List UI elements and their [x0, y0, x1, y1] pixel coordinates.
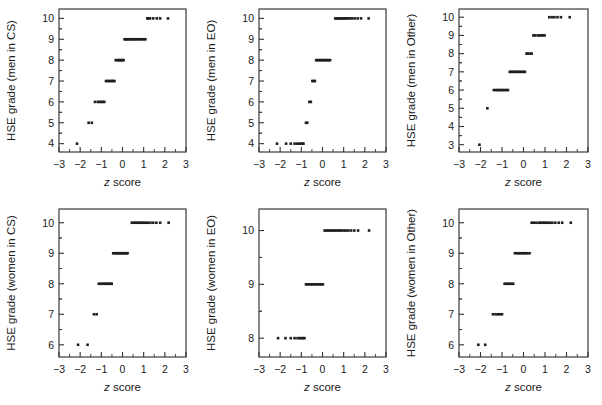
- y-tick-label: 7: [448, 66, 454, 78]
- data-point: [554, 221, 557, 224]
- y-tick-label: 4: [448, 120, 454, 132]
- data-point: [87, 121, 90, 124]
- x-tick-label: 1: [542, 158, 548, 170]
- data-point: [126, 252, 129, 255]
- x-tick-label: 1: [341, 158, 347, 170]
- y-tick-label: 7: [48, 308, 54, 320]
- data-point: [322, 283, 325, 286]
- x-tick-label: 1: [141, 158, 147, 170]
- y-axis-title: HSE grade (men in CS): [5, 20, 17, 141]
- data-point: [543, 34, 546, 37]
- x-tick-label: −2: [74, 363, 86, 375]
- y-axis-title: HSE grade (men in Other): [405, 14, 417, 148]
- y-tick-label: 9: [48, 33, 54, 45]
- data-point: [360, 17, 363, 20]
- data-point: [149, 17, 152, 20]
- data-point: [155, 17, 158, 20]
- plot-men-cs: −3−2−1012345678910z scoreHSE grade (men …: [0, 0, 200, 200]
- x-tick-label: 3: [585, 363, 591, 375]
- x-tick-label: 2: [162, 363, 168, 375]
- x-tick-label: 3: [183, 363, 189, 375]
- data-point: [122, 59, 125, 62]
- y-tick-label: 9: [248, 278, 254, 290]
- x-axis-title-rest: score: [110, 176, 141, 188]
- data-points: [276, 17, 370, 145]
- data-point: [477, 343, 480, 346]
- data-point: [551, 221, 554, 224]
- y-axis-title: HSE grade (men in EO): [205, 20, 217, 142]
- y-tick-label: 8: [448, 278, 454, 290]
- data-point: [353, 17, 356, 20]
- y-tick-label: 4: [248, 137, 254, 149]
- plot-men-eo: −3−2−1012345678910z scoreHSE grade (men …: [200, 0, 400, 200]
- x-tick-label: −1: [496, 363, 508, 375]
- plot-frame: [459, 209, 588, 357]
- data-point: [293, 142, 296, 145]
- y-axis-title: HSE grade (women in Other): [405, 209, 417, 357]
- y-tick-label: 10: [42, 217, 54, 229]
- panel-women-other: −3−2−10123678910z scoreHSE grade (women …: [400, 200, 602, 405]
- x-tick-label: 2: [362, 158, 368, 170]
- x-tick-label: 0: [120, 363, 126, 375]
- y-tick-label: 7: [48, 75, 54, 87]
- x-tick-label: 0: [521, 158, 527, 170]
- data-point: [314, 80, 317, 83]
- data-point: [147, 221, 150, 224]
- x-axis-title-rest: score: [511, 381, 542, 393]
- plot-men-other: −3−2−10123345678910z scoreHSE grade (men…: [400, 0, 602, 200]
- data-point: [530, 52, 533, 55]
- x-axis-title-rest: score: [310, 381, 341, 393]
- data-point: [329, 59, 332, 62]
- plot-women-cs: −3−2−10123678910z scoreHSE grade (women …: [0, 200, 200, 405]
- data-point: [353, 229, 356, 232]
- x-tick-label: −1: [95, 363, 107, 375]
- x-tick-label: −2: [475, 363, 487, 375]
- data-point: [110, 282, 113, 285]
- x-axis-title: z score: [303, 176, 341, 188]
- x-axis-title-rest: score: [511, 176, 542, 188]
- data-point: [284, 337, 287, 340]
- data-point: [293, 337, 296, 340]
- x-tick-label: −1: [295, 363, 307, 375]
- data-point: [478, 143, 481, 146]
- data-point: [91, 121, 94, 124]
- x-axis-title: z score: [303, 381, 341, 393]
- figure-container: −3−2−1012345678910z scoreHSE grade (men …: [0, 0, 602, 405]
- y-tick-label: 6: [448, 84, 454, 96]
- x-tick-label: 3: [183, 158, 189, 170]
- x-tick-label: 3: [383, 363, 389, 375]
- x-tick-label: 1: [341, 363, 347, 375]
- data-point: [77, 343, 80, 346]
- data-point: [113, 80, 116, 83]
- plot-women-other: −3−2−10123678910z scoreHSE grade (women …: [400, 200, 602, 405]
- x-axis-title-rest: score: [310, 176, 341, 188]
- data-point: [368, 229, 371, 232]
- x-tick-label: 0: [320, 158, 326, 170]
- plot-women-eo: −3−2−101238910z scoreHSE grade (women in…: [200, 200, 400, 405]
- data-points: [478, 16, 571, 146]
- x-tick-label: 2: [362, 363, 368, 375]
- data-point: [289, 142, 292, 145]
- data-point: [285, 142, 288, 145]
- panel-men-eo: −3−2−1012345678910z scoreHSE grade (men …: [200, 0, 400, 200]
- x-tick-label: 3: [383, 158, 389, 170]
- y-tick-label: 10: [242, 224, 254, 236]
- y-tick-label: 10: [242, 12, 254, 24]
- plot-frame: [259, 209, 386, 357]
- x-tick-label: 0: [521, 363, 527, 375]
- x-tick-label: −2: [274, 158, 286, 170]
- data-point: [561, 221, 564, 224]
- y-tick-label: 5: [48, 117, 54, 129]
- y-tick-label: 10: [442, 217, 454, 229]
- data-point: [524, 71, 527, 74]
- data-point: [167, 221, 170, 224]
- y-tick-label: 8: [248, 332, 254, 344]
- x-tick-label: −3: [253, 158, 265, 170]
- x-axis-title: z score: [103, 381, 141, 393]
- data-point: [103, 101, 106, 104]
- data-points: [477, 221, 572, 346]
- data-point: [568, 16, 571, 19]
- x-tick-label: −2: [74, 158, 86, 170]
- data-point: [144, 38, 147, 41]
- y-tick-label: 4: [48, 137, 54, 149]
